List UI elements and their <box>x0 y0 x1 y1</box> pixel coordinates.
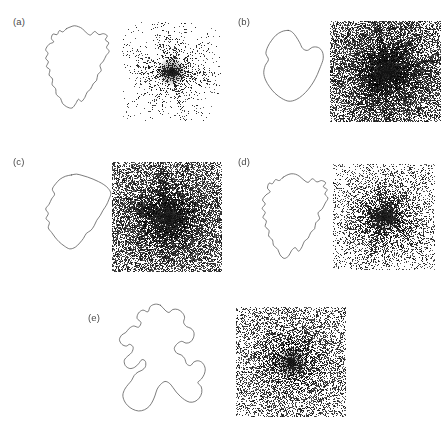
panel-e: (e) <box>0 0 445 429</box>
speckle-e <box>236 307 346 417</box>
speckle-e-canvas <box>236 307 346 417</box>
contour-e-path <box>119 304 205 411</box>
figure-canvas: (a)(b)(c)(d)(e) <box>0 0 445 429</box>
panel-label-e: (e) <box>88 312 100 323</box>
contour-e <box>116 303 214 421</box>
contour-e-svg <box>116 303 214 421</box>
